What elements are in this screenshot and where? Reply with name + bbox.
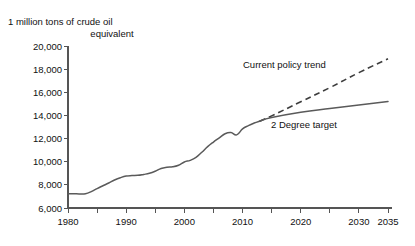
chart-plot-area: 6,0008,00010,00012,00014,00016,00018,000… <box>0 0 415 246</box>
x-axis-tick-marks <box>68 208 388 213</box>
y-axis-tick-marks <box>64 46 68 208</box>
y-axis-tick-label: 18,000 <box>33 64 62 75</box>
series-line-historical <box>68 121 260 194</box>
y-axis-tick-label: 6,000 <box>38 203 62 214</box>
x-axis-tick-label: 2030 <box>348 216 369 227</box>
cropped-caption-sliver <box>8 240 198 246</box>
y-axis-tick-label: 20,000 <box>33 41 62 52</box>
y-axis-tick-label: 8,000 <box>38 179 62 190</box>
x-axis-tick-label: 2000 <box>174 216 195 227</box>
y-axis-tick-label: 10,000 <box>33 156 62 167</box>
x-axis-tick-label: 2035 <box>377 216 398 227</box>
x-axis-tick-label: 2020 <box>290 216 311 227</box>
y-axis-tick-label: 16,000 <box>33 87 62 98</box>
annotation-current-policy-trend: Current policy trend <box>243 59 326 70</box>
chart-container: 1 million tons of crude oil equivalent 6… <box>0 0 415 246</box>
y-axis-tick-label: 12,000 <box>33 133 62 144</box>
y-axis-tick-label: 14,000 <box>33 110 62 121</box>
x-axis-tick-label: 1980 <box>57 216 78 227</box>
x-axis-tick-labels: 1980199020002010202020302035 <box>57 216 398 227</box>
y-axis-tick-labels: 6,0008,00010,00012,00014,00016,00018,000… <box>33 41 62 214</box>
annotation-two-degree-target: 2 Degree target <box>271 119 337 130</box>
x-axis-tick-label: 1990 <box>116 216 137 227</box>
x-axis-tick-label: 2010 <box>232 216 253 227</box>
